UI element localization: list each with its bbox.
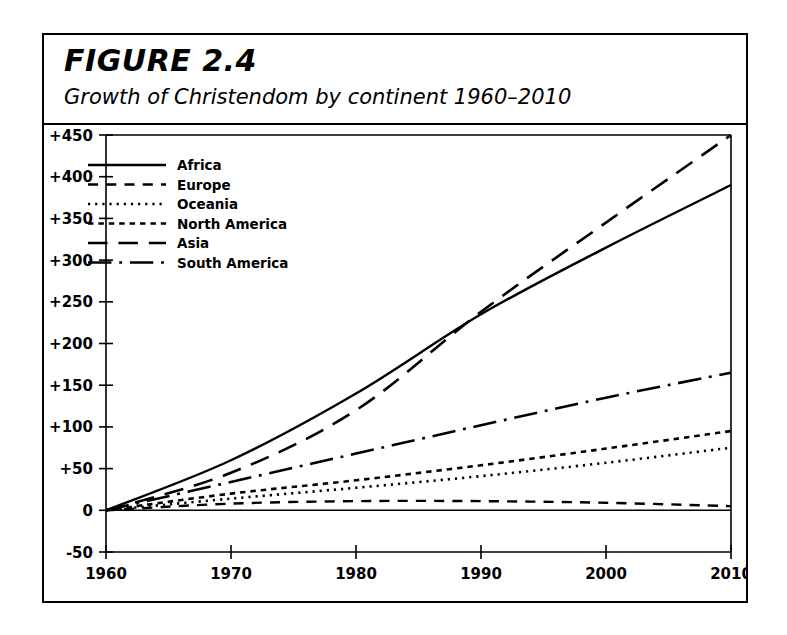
y-tick-label: +350 — [49, 210, 93, 228]
y-tick-label: +250 — [49, 293, 93, 311]
figure-container: FIGURE 2.4 Growth of Christendom by cont… — [42, 33, 748, 603]
chart-legend: AfricaEuropeOceaniaNorth AmericaAsiaSout… — [88, 157, 288, 271]
legend-label-oceania: Oceania — [177, 196, 238, 212]
figure-subtitle: Growth of Christendom by continent 1960–… — [64, 82, 746, 112]
y-axis-ticks: -500+50+100+150+200+250+300+350+400+450 — [49, 127, 113, 562]
y-tick-label: +450 — [49, 127, 93, 145]
x-axis-ticks: 196019701980199020002010 — [85, 545, 746, 583]
legend-label-south-america: South America — [177, 255, 288, 271]
legend-label-africa: Africa — [177, 157, 222, 173]
legend-label-north-america: North America — [177, 216, 287, 232]
figure-header: FIGURE 2.4 Growth of Christendom by cont… — [44, 35, 746, 125]
y-tick-label: +300 — [49, 252, 93, 270]
y-tick-label: +50 — [60, 460, 93, 478]
series-line-south-america — [106, 373, 731, 511]
legend-label-europe: Europe — [177, 177, 231, 193]
y-tick-label: +100 — [49, 418, 93, 436]
legend-label-asia: Asia — [177, 235, 209, 251]
y-tick-label: -50 — [66, 544, 93, 562]
x-tick-label: 1970 — [210, 565, 252, 583]
page-title: FIGURE 2.4 — [64, 44, 746, 78]
x-tick-label: 2010 — [710, 565, 746, 583]
y-tick-label: +150 — [49, 377, 93, 395]
series-line-north-america — [106, 431, 731, 510]
series-line-africa — [106, 185, 731, 510]
x-tick-label: 1980 — [335, 565, 377, 583]
x-tick-label: 1990 — [460, 565, 502, 583]
y-tick-label: 0 — [83, 502, 93, 520]
line-chart: -500+50+100+150+200+250+300+350+400+450 … — [44, 125, 746, 601]
y-tick-label: +200 — [49, 335, 93, 353]
y-tick-label: +400 — [49, 168, 93, 186]
x-tick-label: 2000 — [585, 565, 627, 583]
chart-area: -500+50+100+150+200+250+300+350+400+450 … — [44, 125, 746, 601]
x-tick-label: 1960 — [85, 565, 127, 583]
